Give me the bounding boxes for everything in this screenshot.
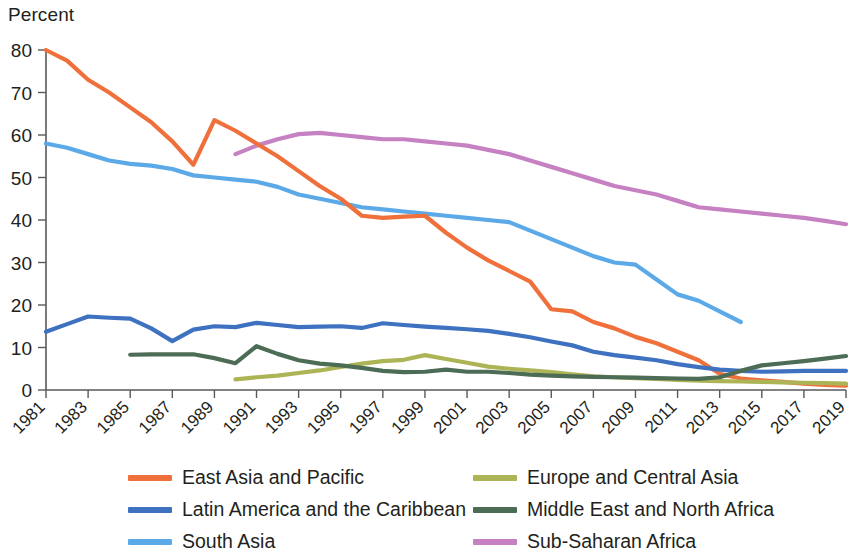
legend-item-europe-and-central-asia[interactable]: Europe and Central Asia [473,462,852,494]
series-line-sub-saharan-africa [235,133,846,224]
x-tick-label: 1985 [93,397,133,437]
x-tick-label: 1989 [177,397,217,437]
legend-item-south-asia[interactable]: South Asia [128,526,473,558]
x-tick-label: 1993 [261,397,301,437]
x-tick-label: 2003 [472,397,512,437]
chart-container: Percent 01020304050607080 19811983198519… [0,0,852,558]
legend-item-east-asia-and-pacific[interactable]: East Asia and Pacific [128,462,473,494]
x-tick-label: 2007 [556,397,596,437]
x-tick-label: 2017 [767,397,807,437]
x-tick-label: 1991 [219,397,259,437]
chart-plot-area: 01020304050607080 1981198319851987198919… [0,0,852,470]
legend-swatch-south-asia [128,539,172,545]
x-tick-label: 2009 [598,397,638,437]
legend-item-middle-east-and-north-africa[interactable]: Middle East and North Africa [473,494,852,526]
legend-label-middle-east-and-north-africa: Middle East and North Africa [527,500,774,520]
legend-swatch-europe-and-central-asia [473,475,517,481]
y-tick-label: 70 [11,83,32,104]
legend-swatch-east-asia-and-pacific [128,475,172,481]
legend-swatch-latin-america-and-the-caribbean [128,507,172,513]
y-axis-group: 01020304050607080 [11,40,46,401]
x-axis-ticks [46,390,846,398]
legend-swatch-sub-saharan-africa [473,539,517,545]
series-line-middle-east-and-north-africa [130,346,846,379]
series-line-south-asia [46,144,741,323]
series-lines [46,50,846,386]
x-tick-label: 2011 [641,397,680,436]
y-tick-label: 60 [11,125,32,146]
legend-swatch-middle-east-and-north-africa [473,507,517,513]
x-tick-label: 2015 [724,397,764,437]
legend-label-east-asia-and-pacific: East Asia and Pacific [182,468,364,488]
legend-item-sub-saharan-africa[interactable]: Sub-Saharan Africa [473,526,852,558]
x-tick-label: 2013 [682,397,722,437]
x-tick-label: 1983 [51,397,91,437]
legend-label-south-asia: South Asia [182,532,275,552]
y-tick-label: 80 [11,40,32,61]
x-tick-label: 1995 [303,397,343,437]
x-tick-label: 2001 [430,397,470,437]
x-tick-label: 1981 [9,397,49,437]
x-tick-label: 1997 [345,397,385,437]
x-axis-tick-labels: 1981198319851987198919911993199519971999… [9,397,849,437]
x-tick-label: 1999 [388,397,428,437]
chart-legend: East Asia and Pacific Europe and Central… [0,462,852,558]
y-tick-label: 50 [11,168,32,189]
x-axis-group [46,390,846,398]
legend-label-sub-saharan-africa: Sub-Saharan Africa [527,532,696,552]
legend-label-europe-and-central-asia: Europe and Central Asia [527,468,738,488]
y-tick-label: 20 [11,295,32,316]
x-tick-label: 1987 [135,397,175,437]
y-tick-label: 10 [11,338,32,359]
y-tick-label: 30 [11,253,32,274]
y-tick-label: 0 [21,380,32,401]
x-tick-label: 2005 [514,397,554,437]
legend-label-latin-america-and-the-caribbean: Latin America and the Caribbean [182,500,466,520]
y-tick-label: 40 [11,210,32,231]
series-line-latin-america-and-the-caribbean [46,316,846,371]
y-axis-ticks: 01020304050607080 [11,40,46,401]
x-tick-label: 2019 [809,397,849,437]
legend-item-latin-america-and-the-caribbean[interactable]: Latin America and the Caribbean [128,494,473,526]
